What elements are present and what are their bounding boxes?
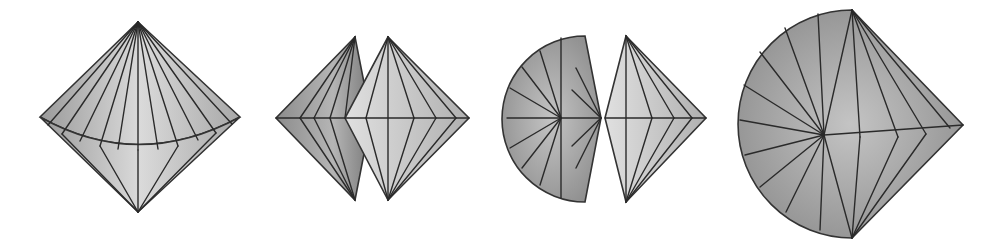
panel-4-unfolded-cone (738, 10, 963, 238)
panel-3-fan-and-bicone (502, 36, 706, 202)
panel-2-overlapping-bicones (276, 37, 469, 200)
panel-1-bicone (40, 22, 240, 212)
bicone-diagram (0, 0, 996, 245)
